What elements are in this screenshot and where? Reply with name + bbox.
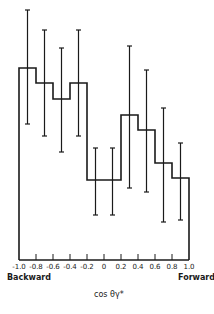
x-annotation-backward: Backward: [7, 273, 51, 282]
x-axis-label: cos θγ*: [94, 290, 124, 299]
histogram-chart: -1.0-0.8-0.6-0.4-0.200.20.40.60.81.0: [0, 0, 214, 314]
x-tick-label: -0.4: [63, 263, 77, 271]
x-tick-label: 0.8: [166, 263, 177, 271]
x-tick-label: 0.4: [132, 263, 144, 271]
x-tick-label: 0.6: [149, 263, 161, 271]
x-tick-label: 1.0: [183, 263, 194, 271]
x-annotation-forward: Forward: [178, 273, 214, 282]
x-tick-label: -0.6: [46, 263, 60, 271]
x-tick-label: -0.8: [29, 263, 43, 271]
x-tick-label: 0: [102, 263, 106, 271]
x-tick-label: -0.2: [80, 263, 94, 271]
x-tick-label: -1.0: [12, 263, 26, 271]
x-tick-label: 0.2: [115, 263, 126, 271]
